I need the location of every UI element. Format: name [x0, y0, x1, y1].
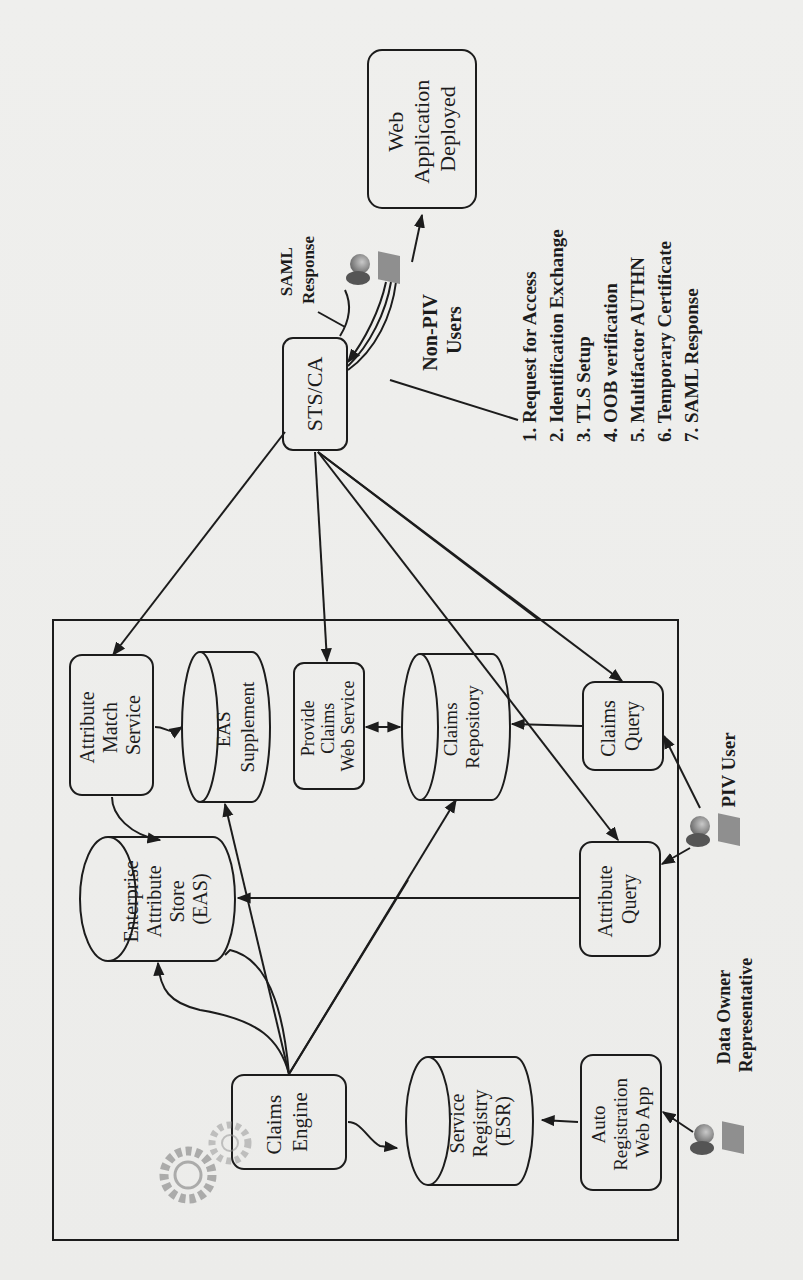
non-piv-users-icon — [346, 251, 400, 285]
saml-response-label: SAML Response — [277, 236, 318, 304]
service-registry-label: Service Registry (ESR) — [446, 1085, 515, 1158]
non-piv-users-label: Non-PIV Users — [419, 289, 465, 370]
eas-supplement-label: EAS Supplement — [213, 681, 258, 772]
step-2: 2. Identification Exchange — [546, 229, 567, 442]
step-1: 1. Request for Access — [519, 271, 540, 442]
piv-user-icon — [686, 813, 740, 847]
step-7: 7. SAML Response — [681, 288, 702, 442]
data-owner-icon — [690, 1121, 744, 1155]
provide-claims-web-service-label: Provide Claims Web Service — [298, 680, 358, 771]
attribute-query-label: Attribute Query — [594, 860, 641, 937]
claims-engine-label: Claims Engine — [262, 1090, 312, 1155]
steps-list: 1. Request for Access 2. Identification … — [519, 229, 702, 442]
auto-registration-web-app-label: Auto Registration Web App — [588, 1073, 653, 1171]
attribute-match-service-label: Attribute Match Service — [76, 686, 144, 763]
gears-icon — [164, 1125, 248, 1199]
data-owner-representative-label: Data Owner Representative — [714, 958, 756, 1073]
step-3: 3. TLS Setup — [573, 336, 594, 442]
architecture-diagram: Web Application Deployed SAML Response S… — [0, 0, 803, 1280]
step-4: 4. OOB verification — [600, 283, 621, 442]
enterprise-attribute-store-label: Enterprise Attribute Store (EAS) — [120, 855, 212, 942]
piv-user-label: PIV User — [718, 732, 739, 808]
step-5: 5. Multifactor AUTHN — [627, 257, 648, 442]
step-6: 6. Temporary Certificate — [654, 241, 675, 442]
claims-repository-label: Claims Repository — [440, 685, 483, 769]
scanned-page: Web Application Deployed SAML Response S… — [0, 0, 803, 1280]
sts-ca-label: STS/CA — [302, 357, 327, 432]
claims-query-label: Claims Query — [597, 695, 644, 757]
web-app-label: Web Application Deployed — [383, 74, 460, 183]
